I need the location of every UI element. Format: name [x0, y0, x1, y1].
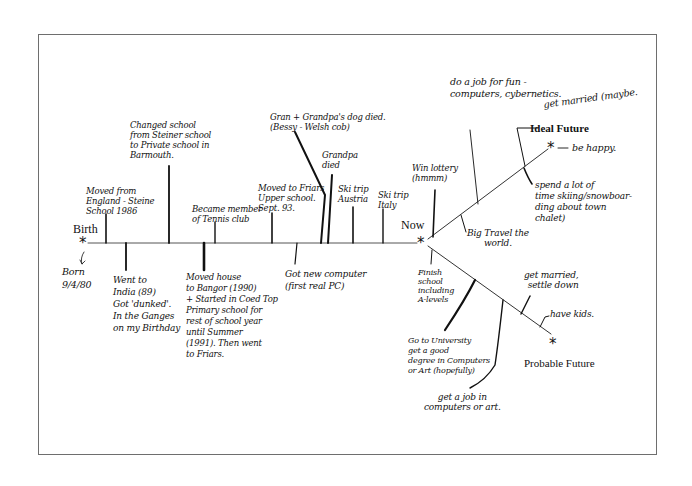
- event-dog-died: Gran + Grandpa's dog died. (Bessy - Wels…: [270, 112, 386, 132]
- event-married-settle: get married, settle down: [524, 270, 579, 290]
- event-job-for-fun: do a job for fun - computers, cybernetic…: [450, 76, 561, 100]
- event-tennis-club: Became member of Tennis club: [192, 204, 262, 224]
- event-job-computers-art: get a job in computers or art.: [424, 392, 501, 412]
- event-have-kids: have kids.: [550, 309, 594, 319]
- event-university: Go to University get a good degree in Co…: [408, 336, 490, 376]
- birth-star-icon: *: [79, 236, 87, 251]
- event-changed-school: Changed school from Steiner school to Pr…: [130, 120, 211, 160]
- event-upper-school: Moved to Friars Upper school. Sept. 93.: [258, 183, 324, 213]
- event-moved-bangor: Moved house to Bangor (1990) + Started i…: [186, 272, 278, 360]
- event-finish-school: Finish school including A-levels: [418, 268, 454, 304]
- ideal-future-star-icon: *: [547, 141, 555, 156]
- event-be-happy: be happy.: [572, 143, 616, 153]
- event-grandpa-died: Grandpa died: [322, 150, 358, 170]
- event-moved-england: Moved from England - Steine School 1986: [86, 186, 154, 216]
- timeline-lines: [0, 0, 692, 486]
- event-win-lottery: Win lottery (hmmm): [412, 163, 458, 183]
- event-india: Went to India (89) Got 'dunked'. In the …: [113, 274, 180, 334]
- probable-future-label: Probable Future: [524, 357, 595, 369]
- now-label: Now: [401, 218, 424, 233]
- ideal-future-label: Ideal Future: [530, 122, 589, 134]
- event-ski-italy: Ski trip Italy: [378, 190, 408, 210]
- event-ski-austria: Ski trip Austria: [338, 184, 368, 204]
- now-star-icon: *: [417, 236, 425, 251]
- event-born: Born 9/4/80: [62, 265, 91, 291]
- event-spend-time-skiing: spend a lot of time skiing/snowboar- din…: [535, 180, 632, 224]
- event-travel-world: Big Travel the world.: [467, 228, 529, 248]
- probable-future-star-icon: *: [549, 337, 557, 352]
- event-new-computer: Got new computer (first real PC): [285, 268, 366, 292]
